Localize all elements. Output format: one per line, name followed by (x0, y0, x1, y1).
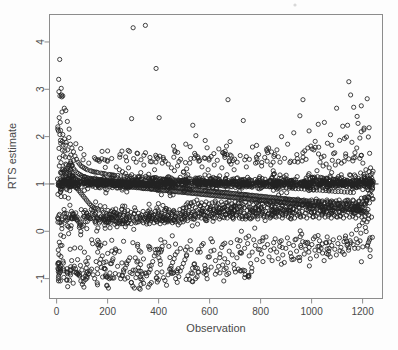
data-point (66, 285, 70, 289)
data-point (259, 252, 263, 256)
data-point (164, 283, 168, 287)
data-point (139, 158, 143, 162)
data-point (183, 160, 187, 164)
data-point (217, 147, 221, 151)
data-point (66, 148, 70, 152)
data-point (307, 245, 311, 249)
data-point (365, 97, 369, 101)
data-point (318, 160, 322, 164)
data-point (278, 160, 282, 164)
data-point (353, 151, 357, 155)
data-point (56, 248, 60, 252)
data-point (126, 166, 130, 170)
data-point (322, 120, 326, 124)
data-point (244, 165, 248, 169)
data-point (172, 155, 176, 159)
data-point (291, 243, 295, 247)
data-point (115, 264, 119, 268)
data-point (230, 253, 234, 257)
data-point (336, 241, 340, 245)
data-point (188, 239, 192, 243)
data-point (152, 168, 156, 172)
data-point (159, 193, 163, 197)
x-tick-label: 200 (99, 306, 116, 317)
data-point (213, 259, 217, 263)
data-point (167, 244, 171, 248)
data-point (345, 123, 349, 127)
data-point (316, 152, 320, 156)
data-point (132, 227, 136, 231)
data-point (151, 259, 155, 263)
data-point (138, 262, 142, 266)
data-point (239, 229, 243, 233)
data-point (184, 142, 188, 146)
data-point (302, 252, 306, 256)
y-tick-label: 1 (35, 181, 46, 187)
data-point (58, 57, 62, 61)
data-point (273, 237, 277, 241)
data-point (341, 124, 345, 128)
data-point (141, 257, 145, 261)
data-point (133, 256, 137, 260)
y-tick-label: 2 (35, 133, 46, 139)
data-point (64, 143, 68, 147)
data-point (206, 168, 210, 172)
data-point (185, 167, 189, 171)
data-point (163, 240, 167, 244)
plot-canvas: -101234 020040060080010001200 Observatio… (0, 0, 398, 350)
data-point (195, 222, 199, 226)
data-point (142, 163, 146, 167)
data-point (133, 206, 137, 210)
data-point (278, 244, 282, 248)
data-points-layer (55, 23, 375, 291)
data-point (170, 234, 174, 238)
data-point (175, 164, 179, 168)
data-point (110, 156, 114, 160)
data-point (222, 279, 226, 283)
data-point (173, 242, 177, 246)
data-point (238, 239, 242, 243)
data-point (368, 151, 372, 155)
data-point (307, 264, 311, 268)
data-point (232, 262, 236, 266)
data-point (200, 165, 204, 169)
data-point (327, 166, 331, 170)
data-point (267, 255, 271, 259)
data-point (322, 259, 326, 263)
data-point (359, 231, 363, 235)
data-point (188, 161, 192, 165)
data-point (367, 126, 371, 130)
data-point (178, 246, 182, 250)
data-point (220, 166, 224, 170)
data-point (337, 236, 341, 240)
data-point (286, 142, 290, 146)
data-point (96, 250, 100, 254)
data-point (125, 190, 129, 194)
data-point (249, 261, 253, 265)
data-point (209, 265, 213, 269)
data-point (363, 225, 367, 229)
data-point (246, 241, 250, 245)
data-point (68, 203, 72, 207)
data-point (359, 260, 363, 264)
data-point (314, 254, 318, 258)
data-point (90, 238, 94, 242)
data-point (156, 202, 160, 206)
y-tick-label: -1 (35, 274, 46, 283)
data-point (98, 261, 102, 265)
data-point (205, 146, 209, 150)
data-point (325, 235, 329, 239)
data-point (155, 271, 159, 275)
data-point (103, 165, 107, 169)
data-point (295, 153, 299, 157)
data-point (95, 267, 99, 271)
data-point (255, 258, 259, 262)
scatter-plot-figure: -101234 020040060080010001200 Observatio… (0, 0, 398, 350)
data-point (94, 200, 98, 204)
data-point (110, 238, 114, 242)
data-point (235, 256, 239, 260)
data-point (298, 114, 302, 118)
data-point (313, 139, 317, 143)
data-point (221, 263, 225, 267)
data-point (172, 144, 176, 148)
